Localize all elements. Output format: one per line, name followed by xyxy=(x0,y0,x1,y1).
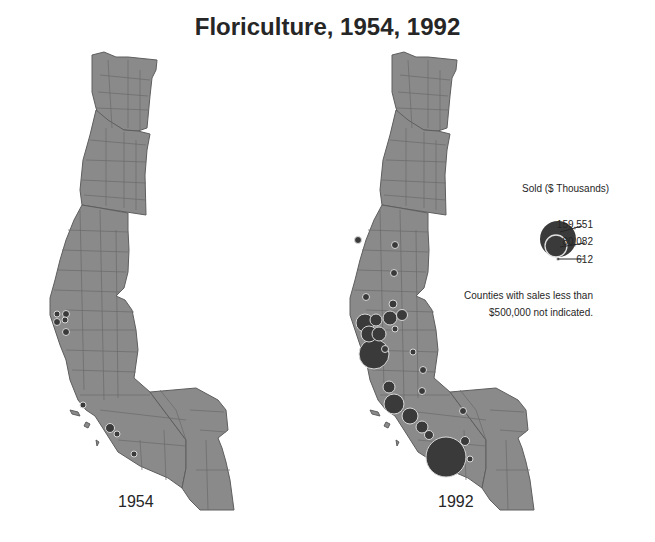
year-label-1992: 1992 xyxy=(438,493,474,511)
legend-value-medium: 80,082 xyxy=(533,236,593,247)
map-1954 xyxy=(50,52,234,510)
legend-value-large: 159,551 xyxy=(533,219,593,230)
maps-canvas xyxy=(0,0,655,542)
legend-value-small: 612 xyxy=(533,254,593,265)
legend-note-line1: Counties with sales less than xyxy=(393,290,593,301)
legend-note-line2: $500,000 not indicated. xyxy=(393,307,593,318)
legend-title: Sold ($ Thousands) xyxy=(522,183,609,194)
year-label-1954: 1954 xyxy=(118,493,154,511)
